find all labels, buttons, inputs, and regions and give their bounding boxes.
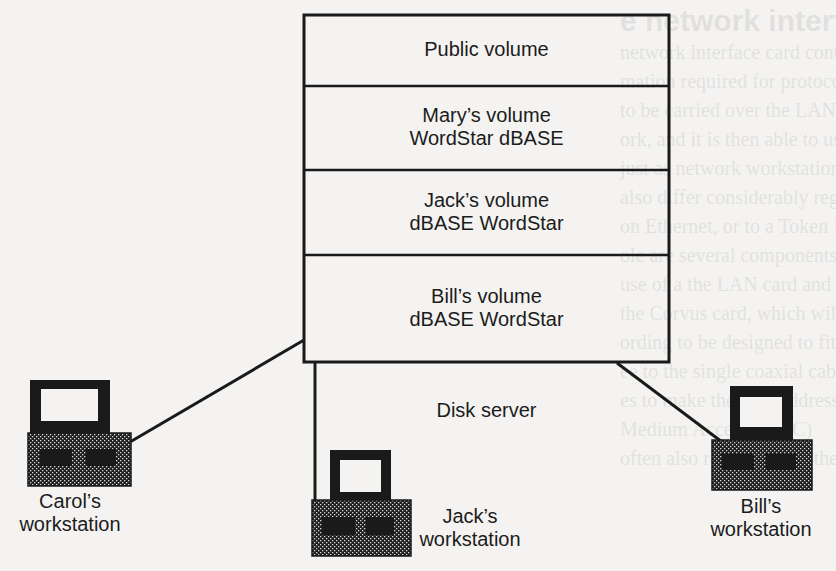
monitor-screen [740, 397, 782, 427]
volume-label: Bill’s volume [304, 285, 669, 308]
carol-workstation-label: Carol’s workstation [0, 490, 140, 536]
volume-apps: dBASE WordStar [304, 308, 669, 331]
workstation-owner: Carol’s [0, 490, 140, 513]
disk-drive-icon [366, 517, 394, 535]
jack-workstation-label: Jack’s workstation [410, 505, 530, 551]
workstation-owner: Bill’s [696, 495, 826, 518]
workstation-owner: Jack’s [410, 505, 530, 528]
bill-workstation-label: Bill’s workstation [696, 495, 826, 541]
workstation-word: workstation [410, 528, 530, 551]
volume-jack: Jack’s volume dBASE WordStar [304, 189, 669, 235]
disk-server-label: Disk server [304, 399, 669, 422]
volume-mary: Mary’s volume WordStar dBASE [304, 104, 669, 150]
volume-apps: WordStar dBASE [304, 127, 669, 150]
carol-workstation-icon [28, 380, 131, 486]
disk-drive-icon [766, 454, 796, 470]
monitor-screen [340, 460, 381, 492]
disk-drive-icon [722, 454, 754, 470]
volume-apps: dBASE WordStar [304, 212, 669, 235]
volume-bill: Bill’s volume dBASE WordStar [304, 285, 669, 331]
workstation-word: workstation [696, 518, 826, 541]
disk-drive-icon [40, 449, 72, 466]
volume-label: Public volume [304, 38, 669, 61]
workstation-word: workstation [0, 513, 140, 536]
volume-label: Mary’s volume [304, 104, 669, 127]
jack-workstation-icon [312, 450, 411, 556]
disk-drive-icon [322, 517, 355, 535]
volume-label: Jack’s volume [304, 189, 669, 212]
volume-public: Public volume [304, 38, 669, 61]
bill-workstation-icon [712, 386, 812, 490]
monitor-screen [41, 389, 98, 421]
carol-connection-line [130, 340, 304, 442]
disk-drive-icon [86, 449, 116, 466]
